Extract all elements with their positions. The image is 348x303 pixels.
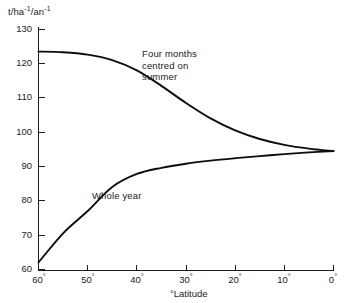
x-tick-label-10: 10° xyxy=(269,274,299,286)
degree-sign: ° xyxy=(141,272,144,281)
annotation-whole-year: Whole year xyxy=(92,190,142,202)
y-tick-label-60: 60 xyxy=(6,263,32,275)
x-tick-label-40: 40° xyxy=(122,274,152,286)
y-tick-label-70: 70 xyxy=(6,229,32,241)
y-tick-label-120: 120 xyxy=(6,57,32,69)
x-tick-label-50: 50° xyxy=(73,274,103,286)
degree-sign: ° xyxy=(334,272,337,281)
y-tick-label-100: 100 xyxy=(6,126,32,138)
x-tick-label-0: 0° xyxy=(318,274,348,286)
annotation-line-2: centred on xyxy=(142,60,197,72)
y-axis-unit-label: t/ha-1/an-1 xyxy=(8,6,51,18)
x-tick-label-30: 30° xyxy=(171,274,201,286)
y-tick-label-130: 130 xyxy=(6,23,32,35)
x-axis-title: °Latitude xyxy=(170,288,208,300)
degree-sign: ° xyxy=(239,272,242,281)
x-tick-label-20: 20° xyxy=(220,274,250,286)
degree-sign: ° xyxy=(92,272,95,281)
y-unit-exponent-2: -1 xyxy=(44,5,50,12)
annotation-line-3: summer xyxy=(142,71,197,83)
annotation-line-1: Four months xyxy=(142,48,197,60)
y-unit-base: t/ha xyxy=(8,6,24,17)
annotation-four-months-summer: Four months centred on summer xyxy=(142,48,197,83)
y-tick-label-80: 80 xyxy=(6,194,32,206)
chart-plot-area xyxy=(0,0,348,303)
degree-sign: ° xyxy=(288,272,291,281)
y-tick-label-110: 110 xyxy=(6,91,32,103)
degree-sign: ° xyxy=(190,272,193,281)
curve-whole-year xyxy=(39,151,334,262)
degree-sign: ° xyxy=(43,272,46,281)
x-tick-label-60: 60° xyxy=(24,274,54,286)
y-unit-separator: /an xyxy=(31,6,45,17)
y-tick-label-90: 90 xyxy=(6,160,32,172)
x-axis-ticks xyxy=(39,265,334,271)
y-axis-ticks xyxy=(39,29,45,269)
chart-figure: t/ha-1/an-1 130 120 110 100 90 80 70 60 … xyxy=(0,0,348,303)
